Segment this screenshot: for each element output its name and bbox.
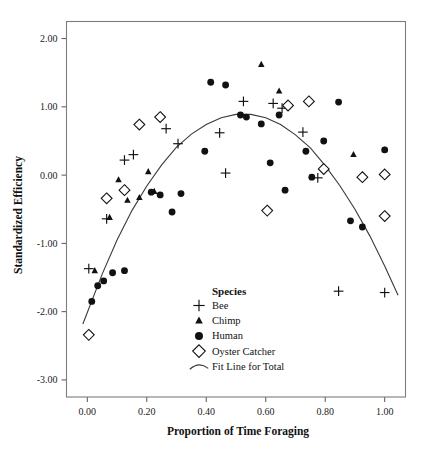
data-point-circle [320,138,327,145]
data-point-circle [282,187,289,194]
data-point-triangle [258,61,264,67]
legend-label: Human [212,330,244,341]
data-point-circle [100,278,107,285]
data-point-diamond [119,185,130,196]
data-point-circle [178,190,185,197]
data-point-diamond [83,329,94,340]
data-point-circle [276,112,283,119]
legend-marker-diamond [193,345,206,358]
data-point-circle [381,146,388,153]
data-point-plus [120,155,130,165]
data-point-circle [335,99,342,106]
legend-title: Species [212,285,247,297]
y-tick-label: -3.00 [37,374,58,385]
y-tick-label: -2.00 [37,306,58,317]
data-point-circle [267,159,274,166]
y-tick-label: 1.00 [40,101,58,112]
data-point-triangle [106,214,112,220]
legend-label: Oyster Catcher [212,346,276,357]
data-points-layer [83,61,390,340]
data-point-plus [268,99,278,109]
legend-marker-circle [195,332,203,340]
data-point-triangle [350,151,356,157]
data-point-diamond [318,164,329,175]
x-axis-title: Proportion of Time Foraging [167,425,309,438]
plot-canvas: Proportion of Time Foraging Standardized… [0,0,430,461]
data-point-triangle [124,197,130,203]
data-point-circle [148,189,155,196]
x-tick-label: 0.20 [138,406,156,417]
data-point-circle [109,269,116,276]
x-tick-label: 0.80 [316,406,334,417]
x-tick-label: 0.00 [79,406,97,417]
y-axis-title: Standardized Efficiency [12,156,25,274]
x-tick-label: 0.40 [198,406,216,417]
data-point-diamond [357,172,368,183]
data-point-plus [215,128,225,138]
legend-marker-line [190,365,208,369]
data-point-circle [201,148,208,155]
series-chimp [92,61,388,273]
legend: Species BeeChimpHumanOyster CatcherFit L… [190,285,285,372]
data-point-plus [334,286,344,296]
data-point-circle [88,298,95,305]
data-point-circle [359,224,366,231]
scatter-plot-figure: Proportion of Time Foraging Standardized… [0,0,430,461]
legend-label: Chimp [212,315,241,326]
data-point-circle [94,282,101,289]
data-point-circle [308,174,315,181]
data-point-circle [207,79,214,86]
data-point-diamond [101,193,112,204]
data-point-plus [161,124,171,134]
legend-marker-plus [193,300,204,311]
data-point-diamond [379,211,390,222]
data-point-triangle [145,168,151,174]
data-point-diamond [134,119,145,130]
data-point-circle [169,209,176,216]
y-tick-label: 2.00 [40,33,58,44]
y-tick-label: 0.00 [40,170,58,181]
data-point-triangle [115,176,121,182]
data-point-circle [222,82,229,89]
data-point-plus [239,97,249,107]
legend-label: Bee [212,300,229,311]
data-point-diamond [155,112,166,123]
data-point-circle [121,267,128,274]
series-human [88,79,388,305]
data-point-circle [347,217,354,224]
legend-marker-triangle [195,316,203,323]
data-point-plus [298,127,308,137]
data-point-triangle [276,87,282,93]
y-tick-label: -1.00 [37,238,58,249]
data-point-circle [157,191,164,198]
data-point-circle [258,120,265,127]
x-tick-label: 1.00 [376,406,394,417]
series-oyster-catcher [83,96,390,340]
x-tick-label: 0.60 [257,406,275,417]
data-point-plus [129,150,139,160]
data-point-triangle [92,267,98,273]
data-point-circle [237,112,244,119]
data-point-diamond [303,96,314,107]
data-point-plus [380,288,390,298]
data-point-circle [302,148,309,155]
data-point-diamond [283,100,294,111]
series-bee [84,97,390,298]
axis-ticks: 0.000.200.400.600.801.002.001.000.00-1.0… [37,33,394,417]
data-point-circle [243,114,250,121]
data-point-diamond [262,205,273,216]
data-point-diamond [379,169,390,180]
data-point-plus [173,139,183,149]
data-point-plus [221,168,231,178]
legend-label: Fit Line for Total [212,361,284,372]
